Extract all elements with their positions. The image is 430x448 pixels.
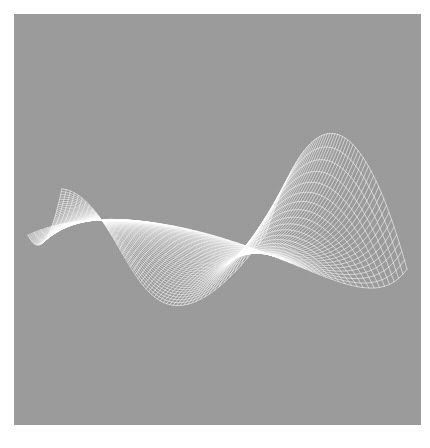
- mesh-v-line: [48, 134, 325, 261]
- mesh-v-line: [57, 181, 286, 285]
- mesh-v-line: [41, 145, 353, 254]
- mesh-v-line: [32, 219, 392, 265]
- caption-area: [0, 425, 430, 448]
- figure-root: [0, 0, 430, 448]
- wireframe-mesh-plot: [14, 14, 421, 425]
- plot-panel: [14, 14, 421, 425]
- mesh-v-line: [34, 199, 384, 260]
- mesh-u-line: [188, 249, 326, 304]
